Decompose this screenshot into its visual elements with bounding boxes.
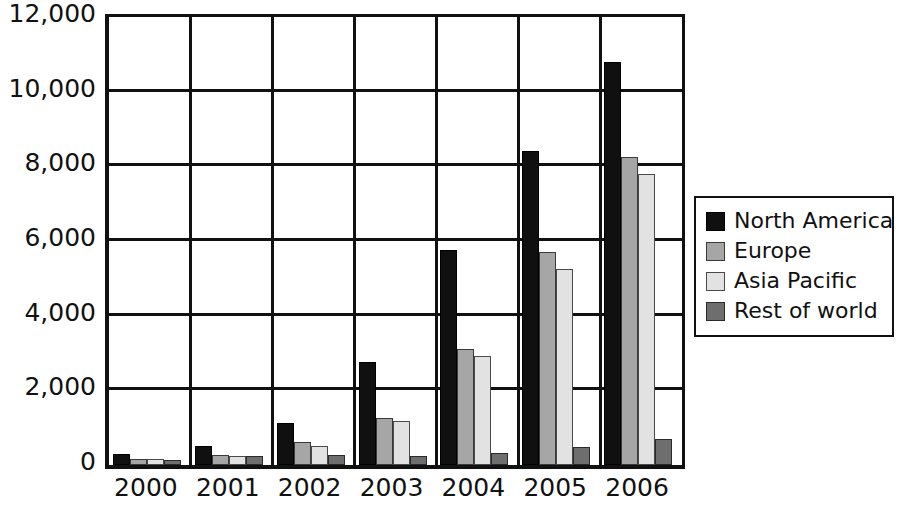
bar-group xyxy=(359,17,427,465)
series-2-swatch xyxy=(706,272,725,291)
bar-group xyxy=(195,17,263,465)
legend-item[interactable]: North America xyxy=(706,206,882,236)
y-tick-label: 12,000 xyxy=(9,1,96,26)
bar-group xyxy=(604,17,672,465)
bar xyxy=(474,356,491,465)
bar xyxy=(229,456,246,465)
series-0-swatch xyxy=(706,212,725,231)
y-tick-label: 8,000 xyxy=(24,150,96,175)
x-tick-label: 2006 xyxy=(596,474,678,502)
bar xyxy=(457,349,474,465)
bar xyxy=(573,447,590,465)
bar xyxy=(410,456,427,465)
legend-item-label: Asia Pacific xyxy=(734,270,857,292)
category-divider xyxy=(271,17,274,465)
category-divider xyxy=(353,17,356,465)
bar-group xyxy=(277,17,345,465)
chart-legend: North AmericaEuropeAsia PacificRest of w… xyxy=(694,196,894,337)
bar xyxy=(147,459,164,465)
bar xyxy=(604,62,621,465)
series-3-swatch xyxy=(706,302,725,321)
legend-item-label: Rest of world xyxy=(734,300,878,322)
bar xyxy=(277,423,294,465)
series-1-swatch xyxy=(706,242,725,261)
bar xyxy=(164,460,181,465)
bar xyxy=(638,174,655,465)
bar xyxy=(539,252,556,465)
bar xyxy=(359,362,376,465)
y-tick-label: 4,000 xyxy=(24,300,96,325)
legend-item[interactable]: Asia Pacific xyxy=(706,266,882,296)
bar xyxy=(621,157,638,465)
category-divider xyxy=(599,17,602,465)
x-tick-label: 2002 xyxy=(269,474,351,502)
x-tick-label: 2000 xyxy=(105,474,187,502)
bar xyxy=(440,250,457,465)
category-divider xyxy=(189,17,192,465)
bar-group xyxy=(522,17,590,465)
plot-area xyxy=(105,14,685,469)
category-divider xyxy=(435,17,438,465)
bar xyxy=(491,453,508,465)
bar xyxy=(393,421,410,465)
bar xyxy=(556,269,573,465)
x-tick-label: 2005 xyxy=(514,474,596,502)
bar xyxy=(294,442,311,465)
category-divider xyxy=(517,17,520,465)
bar-group xyxy=(113,17,181,465)
x-tick-label: 2001 xyxy=(187,474,269,502)
y-tick-label: 6,000 xyxy=(24,225,96,250)
bar xyxy=(195,446,212,465)
legend-item[interactable]: Europe xyxy=(706,236,882,266)
y-tick-label: 10,000 xyxy=(9,76,96,101)
plot-inner xyxy=(109,17,682,465)
x-tick-label: 2003 xyxy=(351,474,433,502)
bar xyxy=(522,151,539,465)
bar xyxy=(311,446,328,465)
x-tick-label: 2004 xyxy=(432,474,514,502)
bar-group xyxy=(440,17,508,465)
x-axis: 2000200120022003200420052006 xyxy=(105,474,685,506)
bar xyxy=(376,418,393,465)
bar xyxy=(113,454,130,465)
bar-chart: 02,0004,0006,0008,00010,00012,000 200020… xyxy=(0,0,902,506)
y-tick-label: 2,000 xyxy=(24,374,96,399)
y-axis: 02,0004,0006,0008,00010,00012,000 xyxy=(0,0,96,506)
bar xyxy=(328,455,345,465)
legend-item-label: North America xyxy=(734,210,893,232)
y-tick-label: 0 xyxy=(80,449,96,474)
bar xyxy=(212,455,229,465)
legend-item-label: Europe xyxy=(734,240,811,262)
bar xyxy=(246,456,263,465)
bar xyxy=(130,459,147,465)
bar xyxy=(655,439,672,465)
legend-item[interactable]: Rest of world xyxy=(706,296,882,326)
